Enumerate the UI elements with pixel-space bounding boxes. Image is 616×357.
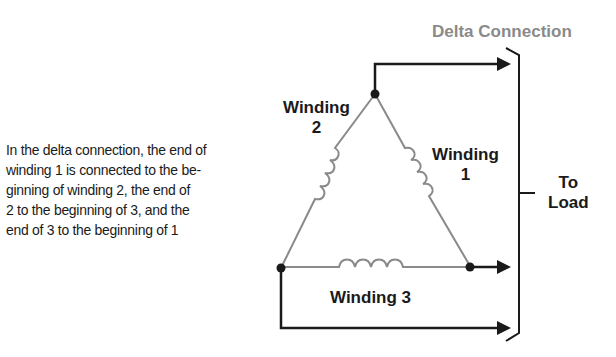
load-bracket	[506, 48, 535, 341]
caption-line: end of 3 to the beginning of 1	[6, 220, 276, 240]
winding-1-label-number: 1	[432, 165, 499, 185]
node-top	[371, 90, 380, 99]
winding-1-label: Winding 1	[432, 145, 499, 185]
caption-line: 2 to the beginning of 3, and the	[6, 200, 276, 220]
winding-2-label: Winding 2	[283, 98, 350, 138]
to-load-line1: To	[548, 173, 589, 193]
winding-3-coil	[281, 260, 470, 268]
arrow-top-icon	[497, 57, 511, 71]
diagram-title: Delta Connection	[432, 22, 572, 42]
caption-line: In the delta connection, the end of	[6, 140, 276, 160]
node-bottom-right	[466, 263, 475, 272]
wire-top	[375, 64, 500, 94]
caption-line: ginning of winding 2, the end of	[6, 180, 276, 200]
to-load-label: To Load	[548, 173, 589, 213]
arrowheads	[497, 57, 511, 335]
caption-text: In the delta connection, the end of wind…	[6, 140, 276, 240]
caption-line: winding 1 is connected to the be-	[6, 160, 276, 180]
winding-1-label-text: Winding	[432, 145, 499, 165]
arrow-middle-icon	[497, 260, 511, 274]
winding-2-label-number: 2	[283, 118, 350, 138]
winding-3-label: Winding 3	[330, 288, 411, 308]
winding-2-label-text: Winding	[283, 98, 350, 118]
to-load-line2: Load	[548, 193, 589, 213]
arrow-bottom-icon	[497, 321, 511, 335]
node-bottom-left	[277, 264, 286, 273]
